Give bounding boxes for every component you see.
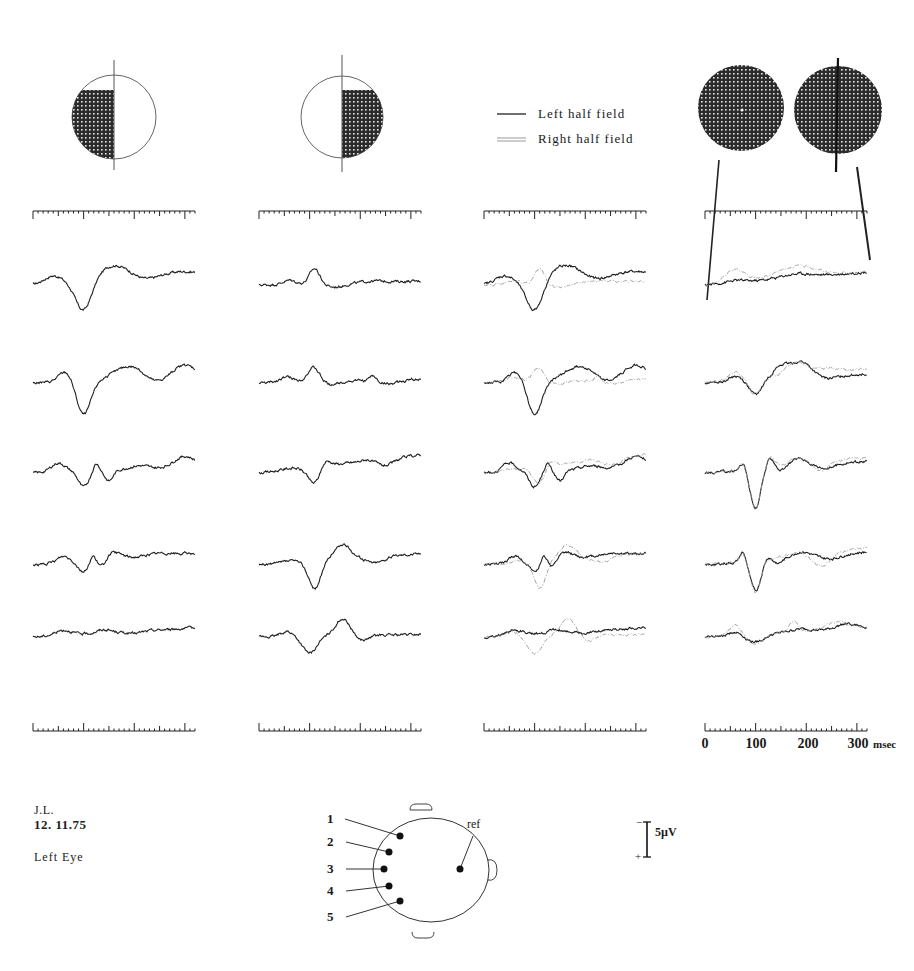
trace-full-channel-5	[705, 623, 867, 643]
trace-right-channel-4	[259, 544, 421, 589]
trace-left-channel-5	[33, 626, 195, 637]
head-diagram: 12345 ref	[327, 804, 497, 938]
trace-column-superimposed	[484, 265, 646, 654]
electrode-3: 3	[327, 861, 388, 876]
top-axis-col-1	[33, 211, 195, 219]
bottom-axis-col-2	[259, 723, 421, 731]
bracket-line-right	[857, 167, 870, 260]
trace-right-channel-3	[484, 453, 646, 483]
trace-column-right-half-field	[259, 269, 421, 653]
trace-right-channel-1	[484, 268, 646, 288]
legend: Left half field Right half field	[497, 106, 633, 146]
tick-label-300: 300	[848, 736, 869, 751]
electrode-label: 3	[327, 861, 334, 876]
electrode-set: 12345	[327, 811, 404, 924]
electrode-dot	[397, 898, 404, 905]
time-axis-labels: 0 100 200 300 msec	[702, 736, 897, 751]
bottom-axis-col-3	[484, 723, 646, 731]
legend-label-right: Right half field	[538, 131, 633, 146]
electrode-leader	[345, 819, 400, 836]
checkerboard-full	[698, 65, 784, 151]
electrode-leader	[346, 886, 389, 891]
stimulus-left-half-field	[72, 60, 156, 170]
electrode-dot	[397, 833, 404, 840]
electrode-label: 5	[327, 909, 334, 924]
recording-date: 12. 11.75	[34, 817, 87, 833]
trace-left-channel-2	[484, 364, 646, 415]
electrode-1: 1	[327, 811, 404, 840]
trace-right-channel-1	[259, 269, 421, 288]
tick-label-200: 200	[798, 736, 819, 751]
subject-initials: J.L.	[34, 803, 54, 818]
trace-full-channel-3	[705, 458, 867, 509]
electrode-2: 2	[327, 834, 393, 856]
top-axis-col-2	[259, 211, 421, 219]
electrode-4: 4	[327, 883, 393, 899]
trace-column-full-field	[705, 264, 867, 644]
ref-label: ref	[467, 817, 480, 831]
trace-left-channel-2	[33, 364, 195, 414]
scale-bar-label: 5µV	[655, 825, 677, 839]
electrode-label: 1	[327, 811, 334, 826]
legend-label-left: Left half field	[538, 106, 625, 121]
electrode-dot	[381, 866, 388, 873]
tick-label-0: 0	[702, 736, 709, 751]
eye-label: Left Eye	[34, 850, 84, 865]
ear-top	[410, 804, 432, 810]
electrode-dot	[386, 883, 393, 890]
scale-negative-sign: −	[636, 816, 642, 828]
bottom-axis-col-4	[705, 723, 867, 731]
electrode-label: 2	[327, 834, 334, 849]
trace-right-channel-2	[484, 367, 646, 385]
ear-bottom	[412, 932, 434, 938]
trace-left-channel-4	[33, 551, 195, 572]
electrode-dot	[386, 849, 393, 856]
trace-left-channel-1	[33, 265, 195, 310]
bottom-axis-col-1	[33, 723, 195, 731]
trace-right-channel-3	[259, 454, 421, 483]
fixation-point	[740, 108, 743, 111]
amplitude-scale-bar: − + 5µV	[635, 816, 677, 862]
trace-left-channel-3	[33, 456, 195, 486]
stimulus-full-field	[698, 58, 882, 300]
trace-column-left-half-field	[33, 265, 195, 637]
scale-positive-sign: +	[635, 850, 641, 862]
electrode-leader	[346, 842, 389, 852]
trace-right-channel-4	[484, 544, 646, 588]
tick-label-100: 100	[746, 736, 767, 751]
time-unit-label: msec	[873, 738, 896, 750]
head-outline	[373, 818, 489, 922]
bracket-line-left	[707, 160, 719, 300]
top-axis-col-3	[484, 211, 646, 219]
electrode-label: 4	[327, 883, 334, 898]
trace-full-channel-2	[705, 361, 867, 395]
trace-full-channel-4	[705, 552, 867, 591]
trace-left-channel-3	[484, 456, 646, 488]
trace-right-channel-5	[259, 619, 421, 653]
ref-leader	[460, 836, 473, 869]
stimulus-right-half-field	[301, 55, 383, 172]
electrode-5: 5	[327, 898, 404, 925]
trace-fullRight-channel-4	[705, 547, 867, 593]
vep-traces	[33, 264, 867, 654]
bottom-time-axes	[33, 723, 867, 731]
ref-electrode	[457, 866, 464, 873]
trace-full-channel-1	[705, 272, 867, 286]
top-time-axes	[33, 211, 867, 219]
trace-left-channel-1	[484, 265, 646, 311]
vep-figure: Left half field Right half field 0 100 2…	[0, 0, 914, 971]
trace-right-channel-2	[259, 366, 421, 385]
top-axis-col-4	[705, 211, 867, 219]
trace-right-channel-5	[484, 619, 646, 655]
